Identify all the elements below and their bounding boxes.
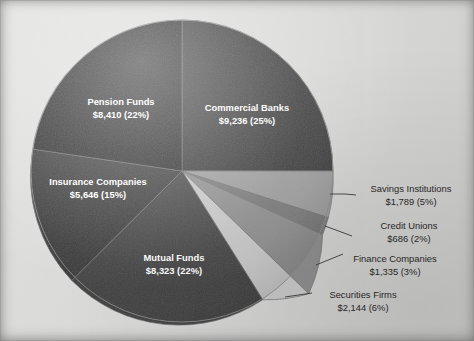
outside-slice-labels: Savings Institutions $1,789 (5%) Credit …	[329, 183, 451, 313]
leader-line-credit-unions	[325, 226, 352, 236]
outside-value-savings-institutions: $1,789 (5%)	[385, 196, 436, 207]
slice-label-mutual-funds: Mutual Funds	[144, 252, 205, 263]
leader-line-savings-institutions	[330, 194, 356, 195]
slice-value-commercial-banks: $9,236 (25%)	[219, 115, 275, 126]
pie-shading-overlay	[31, 20, 333, 322]
slice-value-pension-funds: $8,410 (22%)	[93, 109, 149, 120]
chart-page: Commercial Banks $9,236 (25%) Pension Fu…	[0, 0, 474, 341]
pie-chart: Commercial Banks $9,236 (25%) Pension Fu…	[0, 0, 474, 341]
slice-value-mutual-funds: $8,323 (22%)	[146, 265, 202, 276]
outside-label-finance-companies: Finance Companies	[353, 253, 437, 264]
outside-value-finance-companies: $1,335 (3%)	[369, 266, 420, 277]
outside-label-credit-unions: Credit Unions	[381, 220, 438, 231]
outside-value-securities-firms: $2,144 (6%)	[337, 302, 388, 313]
slice-label-pension-funds: Pension Funds	[87, 96, 154, 107]
slice-value-insurance-companies: $5,646 (15%)	[70, 189, 126, 200]
slice-label-insurance-companies: Insurance Companies	[49, 176, 146, 187]
slice-label-commercial-banks: Commercial Banks	[205, 102, 289, 113]
outside-label-savings-institutions: Savings Institutions	[371, 183, 452, 194]
pie-slices	[30, 20, 333, 325]
outside-value-credit-unions: $686 (2%)	[387, 233, 430, 244]
outside-label-securities-firms: Securities Firms	[329, 289, 397, 300]
